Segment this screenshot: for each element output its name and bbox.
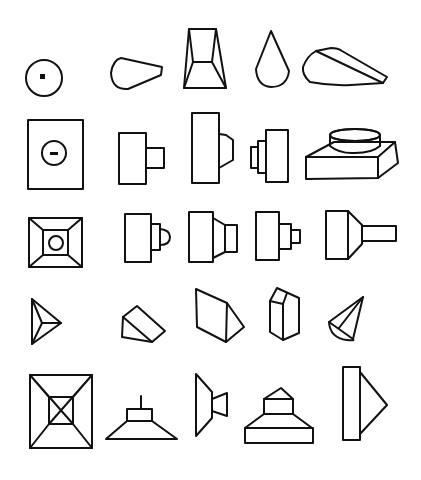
figure-triple-step <box>251 130 288 182</box>
figure-rect-taper-shaft <box>326 211 396 259</box>
figure-rect-double-step <box>256 212 300 260</box>
figure-lamp-shape <box>106 396 177 439</box>
figure-wedge-large <box>196 289 244 342</box>
figure-house-stack <box>245 388 313 443</box>
figure-cam-iso <box>303 48 387 85</box>
figure-rect-triangle <box>343 367 387 440</box>
figure-frustum-top <box>29 218 82 267</box>
figures-svg <box>0 0 421 480</box>
figure-rect-round-boss <box>125 214 170 262</box>
figure-pyramid-top <box>32 299 61 344</box>
figure-tall-rect-chamfer <box>192 113 233 183</box>
figure-rect-taper-boss <box>189 212 237 262</box>
figure-pentagonal-prism <box>270 288 299 340</box>
figure-teardrop <box>256 31 289 87</box>
figure-circle-with-dot <box>26 60 62 96</box>
diagram-canvas <box>0 0 421 480</box>
figure-frustum-square-top <box>30 375 92 448</box>
figure-tapered-cam <box>111 58 162 89</box>
figure-half-cone <box>329 297 363 340</box>
figure-rect-step <box>119 133 164 184</box>
figure-trapezoid-side <box>196 374 227 436</box>
figure-rect-with-circle <box>28 120 83 189</box>
figure-frustum-front <box>184 29 226 88</box>
figure-block-cylinder-iso <box>306 129 398 179</box>
figure-wedge-small <box>122 306 165 342</box>
